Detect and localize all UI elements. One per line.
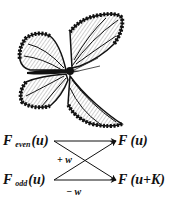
butterfly-diagram: Feven(u) Fodd(u) F (u) F (u+K) + w − w bbox=[0, 128, 171, 198]
output-top-label: F (u) bbox=[118, 134, 148, 148]
input-even-name: F bbox=[3, 133, 12, 148]
output-bottom-label: F (u+K) bbox=[118, 173, 165, 187]
input-odd-label: Fodd(u) bbox=[3, 173, 45, 187]
lower-right-wing bbox=[68, 76, 122, 126]
input-odd-subscript: odd bbox=[15, 179, 27, 188]
input-odd-arg: (u) bbox=[28, 172, 45, 187]
lower-left-wing bbox=[21, 74, 68, 107]
input-even-label: Feven(u) bbox=[3, 134, 49, 148]
butterfly-illustration bbox=[0, 0, 171, 130]
upper-right-wing bbox=[70, 14, 122, 68]
input-even-subscript: even bbox=[15, 140, 30, 149]
input-odd-name: F bbox=[3, 172, 12, 187]
upper-left-wing bbox=[20, 33, 66, 70]
weight-minus-label: − w bbox=[66, 186, 81, 197]
weight-plus-label: + w bbox=[57, 154, 72, 165]
input-even-arg: (u) bbox=[31, 133, 48, 148]
